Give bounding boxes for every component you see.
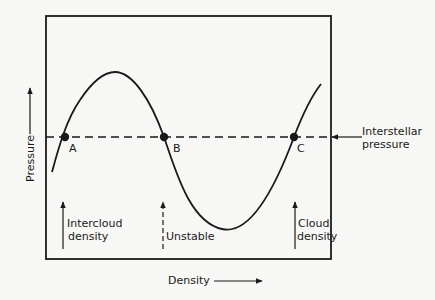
unstable-label: Unstable — [166, 230, 215, 243]
point-b-marker — [160, 133, 168, 141]
interstellar-label-line1: Interstellar — [362, 125, 422, 138]
interstellar-label-line2: pressure — [362, 138, 410, 151]
cloud-label-line1: Cloud — [298, 217, 329, 230]
intercloud-label-line1: Intercloud — [67, 217, 122, 230]
density-axis-label: Density — [168, 274, 210, 287]
cloud-label-line2: density — [297, 230, 338, 243]
point-c-marker — [290, 133, 298, 141]
point-b-label: B — [173, 142, 181, 155]
point-a-label: A — [69, 142, 77, 155]
point-a-marker — [61, 133, 69, 141]
intercloud-label-line2: density — [68, 230, 109, 243]
equilibrium-curve — [52, 72, 321, 230]
point-c-label: C — [297, 142, 305, 155]
pressure-density-diagram: A B C Interstellar pressure Intercloud d… — [0, 0, 435, 300]
pressure-axis-label: Pressure — [24, 135, 37, 182]
